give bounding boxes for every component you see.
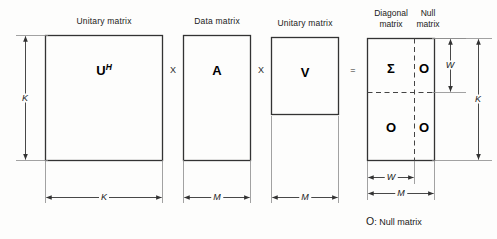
dim-label-result-total-height: K	[473, 95, 483, 104]
dim-label-result-sigma-width: W	[385, 173, 398, 182]
svd-diagram: Unitary matrix Data matrix Unitary matri…	[0, 0, 497, 239]
operator-multiply-1: X	[170, 65, 176, 75]
label-diagonal-matrix-line1: Diagonal	[374, 8, 408, 19]
dim-label-a-width: M	[211, 193, 223, 202]
matrix-box-u-hermitian	[46, 36, 163, 161]
matrix-symbol-null-top-right: O	[419, 61, 429, 76]
dim-label-result-top-height: W	[444, 61, 457, 70]
dim-label-u-height: K	[20, 94, 30, 103]
matrix-box-result	[368, 39, 435, 161]
matrix-symbol-u-hermitian: UH	[96, 62, 112, 78]
label-diagonal-matrix-line2: matrix	[374, 19, 408, 30]
legend-text: : Null matrix	[374, 217, 422, 227]
label-null-matrix-line1: Null	[416, 8, 439, 19]
operator-equals: =	[350, 65, 355, 75]
label-unitary-matrix-u: Unitary matrix	[76, 16, 131, 26]
operator-multiply-2: X	[258, 65, 264, 75]
dim-label-v-width: M	[299, 193, 311, 202]
matrix-box-a	[184, 36, 251, 161]
matrix-symbol-u-base: U	[96, 63, 105, 78]
matrix-symbol-a: A	[212, 63, 221, 78]
matrix-symbol-u-superscript: H	[106, 62, 112, 72]
matrix-symbol-null-bottom-right: O	[419, 120, 429, 135]
label-data-matrix: Data matrix	[194, 16, 240, 26]
matrix-symbol-null-bottom-left: O	[386, 120, 396, 135]
dim-label-result-total-width: M	[395, 189, 407, 198]
label-null-matrix-line2: matrix	[416, 19, 439, 30]
legend-null-matrix: O: Null matrix	[366, 215, 422, 227]
dim-label-u-width: K	[99, 193, 109, 202]
matrix-symbol-v: V	[301, 65, 310, 80]
label-diagonal-matrix: Diagonal matrix	[374, 8, 408, 29]
legend-symbol: O	[366, 215, 374, 227]
matrix-symbol-sigma: Σ	[387, 61, 395, 76]
label-null-matrix: Null matrix	[416, 8, 439, 29]
label-unitary-matrix-v: Unitary matrix	[277, 18, 332, 28]
